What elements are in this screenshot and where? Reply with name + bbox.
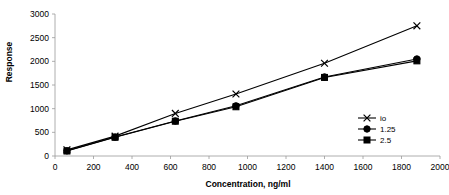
legend-1.25-circle-marker xyxy=(364,126,370,132)
x-tick-label: 0 xyxy=(53,162,58,172)
series-2.5-point-square-marker xyxy=(64,148,70,154)
data-series-group xyxy=(64,22,421,154)
series-2.5-point-square-marker xyxy=(172,118,178,124)
x-axis-ticks xyxy=(55,156,440,159)
y-tick-label: 2500 xyxy=(30,33,49,43)
series-io-point-x-marker xyxy=(321,60,328,67)
series-2.5-point-square-marker xyxy=(233,104,239,110)
legend-label-1.25: 1.25 xyxy=(380,125,396,134)
chart-legend: io1.252.5 xyxy=(358,114,396,145)
x-axis-tick-labels: 0200400600800100012001400160018002000 xyxy=(53,162,449,172)
y-axis-title: Response xyxy=(4,41,14,82)
x-tick-label: 400 xyxy=(125,162,139,172)
response-vs-concentration-chart: 050010001500200025003000 020040060080010… xyxy=(0,0,449,195)
y-tick-label: 1500 xyxy=(30,80,49,90)
series-io-point-x-marker xyxy=(172,110,179,117)
x-tick-label: 1400 xyxy=(315,162,334,172)
y-tick-label: 500 xyxy=(35,127,49,137)
legend-item-1.25[interactable]: 1.25 xyxy=(358,125,396,134)
series-io-point-x-marker xyxy=(233,91,240,98)
x-tick-label: 1200 xyxy=(277,162,296,172)
y-tick-label: 3000 xyxy=(30,9,49,19)
x-tick-label: 2000 xyxy=(431,162,449,172)
y-axis-ticks xyxy=(52,14,55,156)
legend-item-io[interactable]: io xyxy=(358,114,387,123)
x-tick-label: 1800 xyxy=(392,162,411,172)
x-tick-label: 600 xyxy=(163,162,177,172)
series-2.5-point-square-marker xyxy=(414,58,420,64)
series-io-point-x-marker xyxy=(414,22,421,29)
y-tick-label: 1000 xyxy=(30,104,49,114)
x-tick-label: 1600 xyxy=(354,162,373,172)
series-2.5-point-square-marker xyxy=(322,74,328,80)
legend-label-2.5: 2.5 xyxy=(380,136,392,145)
x-axis-title: Concentration, ng/ml xyxy=(206,179,291,189)
x-tick-label: 1000 xyxy=(238,162,257,172)
y-axis-tick-labels: 050010001500200025003000 xyxy=(30,9,49,161)
series-io xyxy=(64,22,421,153)
chart-container: 050010001500200025003000 020040060080010… xyxy=(0,0,449,195)
x-tick-label: 200 xyxy=(86,162,100,172)
axes-group: 050010001500200025003000 020040060080010… xyxy=(30,9,449,172)
legend-label-io: io xyxy=(380,114,387,123)
series-2.5-point-square-marker xyxy=(112,134,118,140)
y-tick-label: 0 xyxy=(44,151,49,161)
x-tick-label: 800 xyxy=(202,162,216,172)
y-tick-label: 2000 xyxy=(30,56,49,66)
legend-2.5-square-marker xyxy=(364,137,370,143)
legend-item-2.5[interactable]: 2.5 xyxy=(358,136,392,145)
